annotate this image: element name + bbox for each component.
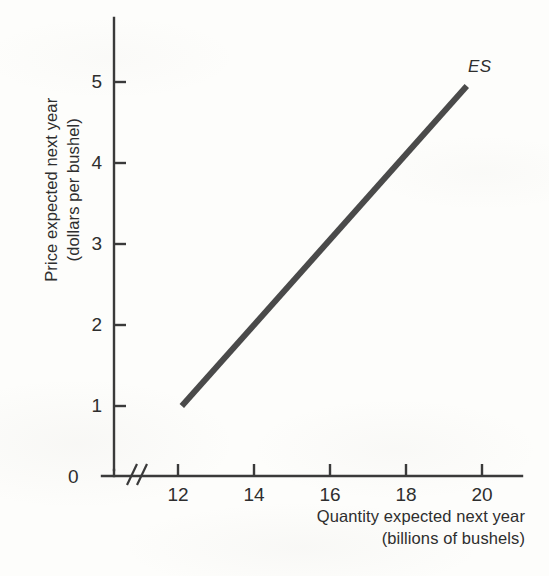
x-tick-label-12: 12 — [167, 484, 188, 506]
series-label-es: ES — [468, 57, 491, 77]
x-tick-label-16: 16 — [319, 484, 340, 506]
x-axis-ticks — [178, 464, 482, 476]
x-tick-label-20: 20 — [471, 484, 492, 506]
y-tick-label-2: 2 — [78, 314, 102, 336]
origin-label: 0 — [68, 466, 79, 488]
es-supply-curve — [182, 86, 467, 406]
y-tick-label-1: 1 — [78, 395, 102, 417]
y-axis-ticks — [114, 82, 126, 406]
x-axis-caption-line2: (billions of bushels) — [200, 527, 525, 549]
axis-break-icon — [127, 464, 147, 485]
x-axis-caption: Quantity expected next year (billions of… — [200, 505, 525, 549]
x-tick-label-14: 14 — [243, 484, 264, 506]
y-axis-caption-line1: Price expected next year — [41, 65, 63, 315]
x-tick-label-18: 18 — [395, 484, 416, 506]
x-axis-caption-line1: Quantity expected next year — [200, 505, 525, 527]
y-axis-caption: Price expected next year (dollars per bu… — [41, 65, 85, 315]
y-axis-caption-line2: (dollars per bushel) — [63, 65, 85, 315]
supply-curve-figure: 5 4 3 2 1 0 12 14 16 18 20 Price expecte… — [0, 0, 549, 576]
